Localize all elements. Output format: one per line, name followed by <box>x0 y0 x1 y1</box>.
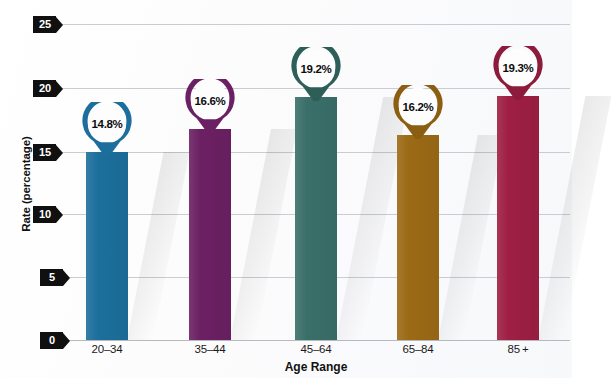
y-tick-25-label: 25 <box>33 16 56 33</box>
value-pin-35-44-label: 16.6% <box>178 95 242 107</box>
x-category-85-plus: 85 + <box>478 343 558 355</box>
bar-sheen <box>397 135 439 340</box>
x-category-65-84: 65–84 <box>378 343 458 355</box>
y-tick-15-arrow-icon <box>56 145 63 161</box>
y-tick-0: 0 <box>40 332 70 349</box>
bar-sheen <box>86 152 128 340</box>
value-pin-45-64-label: 19.2% <box>284 63 348 75</box>
bar-35-44[interactable] <box>189 129 231 340</box>
bar-shadow-5 <box>538 96 611 340</box>
bar-20-34[interactable] <box>86 152 128 340</box>
value-pin-65-84[interactable]: 16.2% <box>386 85 450 139</box>
y-tick-5-label: 5 <box>40 269 63 286</box>
y-tick-10-label: 10 <box>33 206 56 223</box>
y-tick-10: 10 <box>33 206 63 223</box>
y-tick-0-label: 0 <box>40 332 63 349</box>
y-tick-5-arrow-icon <box>63 270 70 286</box>
x-axis-label: Age Range <box>62 360 570 374</box>
x-category-20-34: 20–34 <box>67 343 147 355</box>
value-pin-85-plus[interactable]: 19.3% <box>486 46 550 100</box>
y-tick-20: 20 <box>33 80 63 97</box>
y-tick-20-arrow-icon <box>56 81 63 97</box>
y-tick-15-label: 15 <box>33 144 56 161</box>
y-tick-25-arrow-icon <box>56 17 63 33</box>
bar-sheen <box>189 129 231 340</box>
bar-sheen <box>497 96 539 340</box>
x-category-45-64: 45–64 <box>276 343 356 355</box>
bar-65-84[interactable] <box>397 135 439 340</box>
bar-shadow-2 <box>230 129 297 340</box>
value-pin-85-plus-label: 19.3% <box>486 62 550 74</box>
value-pin-65-84-label: 16.2% <box>386 101 450 113</box>
bar-shadow-4 <box>438 135 504 340</box>
bar-sheen <box>295 97 337 340</box>
x-category-35-44: 35–44 <box>170 343 250 355</box>
bar-45-64[interactable] <box>295 97 337 340</box>
axis-baseline <box>62 340 570 341</box>
value-pin-35-44[interactable]: 16.6% <box>178 79 242 133</box>
y-tick-25: 25 <box>33 16 63 33</box>
y-tick-20-label: 20 <box>33 80 56 97</box>
y-tick-15: 15 <box>33 144 63 161</box>
y-tick-10-arrow-icon <box>56 207 63 223</box>
value-pin-20-34[interactable]: 14.8% <box>75 102 139 156</box>
value-pin-20-34-label: 14.8% <box>75 118 139 130</box>
bar-85-plus[interactable] <box>497 96 539 340</box>
value-pin-45-64[interactable]: 19.2% <box>284 47 348 101</box>
bar-shadow-1 <box>127 152 190 340</box>
y-axis-label: Rate (percentage) <box>20 109 32 259</box>
y-tick-5: 5 <box>40 269 70 286</box>
gridline-25 <box>62 24 570 25</box>
